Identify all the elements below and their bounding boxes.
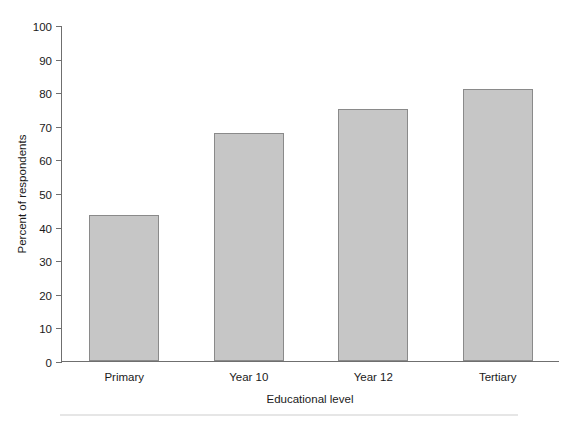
y-axis-tick-label: 60 [26, 153, 52, 169]
footer-divider [60, 414, 518, 416]
y-axis-tick: 40 [56, 228, 62, 229]
y-axis-tick-label: 30 [26, 254, 52, 270]
y-axis-tick: 30 [56, 261, 62, 262]
y-axis-tick: 10 [56, 328, 62, 329]
y-axis-tick: 60 [56, 160, 62, 161]
y-axis-tick-label: 10 [26, 321, 52, 337]
y-axis-tick: 80 [56, 93, 62, 94]
y-axis-tick-label: 50 [26, 187, 52, 203]
bar-year-12 [338, 109, 408, 361]
y-axis-tick-label: 40 [26, 221, 52, 237]
y-axis-tick: 20 [56, 295, 62, 296]
y-axis-tick-label: 100 [26, 19, 52, 35]
y-axis-tick: 0 [56, 362, 62, 363]
y-axis-tick-label: 0 [26, 355, 52, 371]
y-axis-tick-label: 70 [26, 120, 52, 136]
y-axis-tick-label: 20 [26, 288, 52, 304]
y-axis-tick: 100 [56, 26, 62, 27]
x-axis-tick-label: Primary [62, 370, 187, 384]
bar-year-10 [214, 133, 284, 361]
y-axis-tick-label: 90 [26, 53, 52, 69]
bar-primary [89, 215, 159, 361]
y-axis-tick: 90 [56, 60, 62, 61]
y-axis-tick: 70 [56, 127, 62, 128]
bar-tertiary [463, 89, 533, 361]
x-axis-tick-label: Year 10 [187, 370, 312, 384]
x-axis-tick-label: Year 12 [311, 370, 436, 384]
y-axis-tick: 50 [56, 194, 62, 195]
y-axis-tick-label: 80 [26, 86, 52, 102]
plot-area: 0102030405060708090100PrimaryYear 10Year… [61, 26, 559, 362]
x-axis-tick-label: Tertiary [436, 370, 561, 384]
x-axis-title: Educational level [61, 392, 559, 406]
bar-chart-figure: Percent of respondents 01020304050607080… [0, 0, 578, 425]
